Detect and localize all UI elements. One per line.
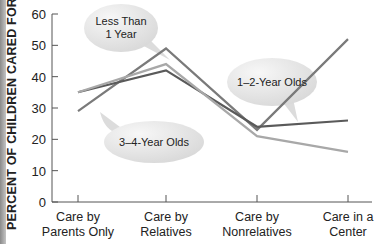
y-tick-label: 0 <box>39 195 46 210</box>
callout-text-line2: 1 Year <box>95 28 146 41</box>
y-tick-label: 30 <box>32 101 46 116</box>
y-tick-label: 20 <box>32 132 46 147</box>
x-category-label: Care byParents Only <box>28 210 128 240</box>
callout-1-2-year-olds: 1–2-Year Olds <box>228 62 316 102</box>
x-category-label: Care in aCenter <box>298 210 380 240</box>
x-category-label: Care byRelatives <box>116 210 216 240</box>
callout-text-line1: Less Than <box>95 15 146 28</box>
line-chart: 0102030405060 <box>0 0 380 244</box>
y-tick-label: 50 <box>32 38 46 53</box>
y-tick-label: 60 <box>32 7 46 22</box>
callout-text: 3–4-Year Olds <box>119 136 189 149</box>
y-tick-label: 10 <box>32 164 46 179</box>
y-tick-label: 40 <box>32 70 46 85</box>
x-category-label: Care byNonrelatives <box>207 210 307 240</box>
callout-3-4-year-olds: 3–4-Year Olds <box>106 124 202 160</box>
callout-text: 1–2-Year Olds <box>237 76 307 89</box>
callout-less-than-1-year: Less Than1 Year <box>86 6 156 50</box>
